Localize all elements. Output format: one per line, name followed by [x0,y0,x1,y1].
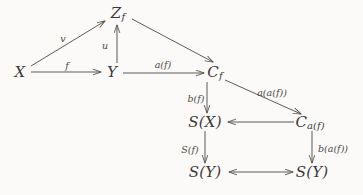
node-y: Y [107,63,117,81]
edge-label-v: v [60,33,65,44]
edge-label-bf: b(f) [187,93,204,104]
node-cf: Cf [207,63,222,82]
edge-label-aaf: a(a(f)) [257,87,287,98]
node-sx: S(X) [188,113,221,131]
edge-label-sf: S(f) [181,144,198,155]
edge-label-u: u [102,40,108,51]
node-sy-right: S(Y) [296,163,329,181]
edge-label-f: f [65,60,69,71]
node-sy-left: S(Y) [189,163,222,181]
diagram-canvas: X Zf Y Cf S(X) Ca(f) S(Y) S(Y) v f u a(f… [0,0,363,195]
edge-label-af: a(f) [155,59,172,70]
node-x: X [15,63,26,81]
edge-label-baf: b(a(f)) [318,143,348,154]
arrow-zf-to-cf [132,19,213,62]
node-caf: Ca(f) [295,113,324,132]
node-zf: Zf [111,4,125,23]
